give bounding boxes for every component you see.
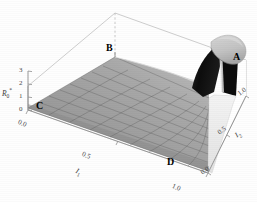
z-tick-0: 0 — [19, 105, 23, 113]
corner-label-b: B — [106, 42, 113, 53]
z-axis-title-sub: 0 — [7, 93, 10, 99]
z-tick-3: 3 — [19, 66, 23, 74]
corner-label-a: A — [233, 51, 240, 62]
surface-mesh — [28, 57, 212, 171]
corner-label-c: C — [36, 100, 43, 111]
corner-label-d: D — [167, 156, 174, 167]
z-axis-title: R0* — [2, 87, 12, 99]
surface-plot-figure: R0* 3 2 1 0 0.0 0.5 1.0 I1 1.0 0.5 0.0 I… — [0, 0, 257, 202]
z-axis-title-sup: * — [9, 87, 12, 93]
z-tick-2: 2 — [19, 79, 23, 87]
z-tick-1: 1 — [19, 92, 23, 100]
